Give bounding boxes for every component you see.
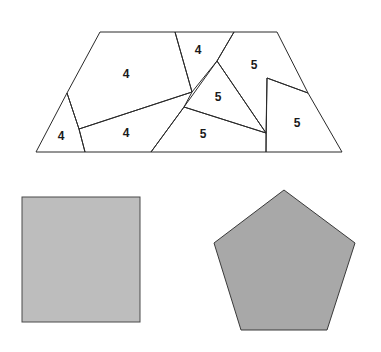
- label-piece-E: 5: [251, 58, 258, 72]
- pentagon-shape: [214, 190, 355, 330]
- label-piece-F: 5: [215, 90, 222, 104]
- label-piece-G: 5: [200, 127, 207, 141]
- label-piece-D: 4: [123, 126, 130, 140]
- square-shape: [22, 197, 140, 322]
- piece-top-left-4: [67, 32, 192, 129]
- label-piece-A: 4: [123, 67, 130, 81]
- label-piece-H: 5: [294, 116, 301, 130]
- piece-bottom-middle-4: [79, 92, 192, 152]
- piece-bottom-5: [151, 107, 266, 152]
- piece-top-middle-4: [175, 32, 234, 92]
- dissection-diagram: 4 4 4 4 5 5 5 5: [0, 0, 381, 352]
- piece-right-5: [266, 78, 342, 152]
- label-piece-B: 4: [195, 43, 202, 57]
- label-piece-C: 4: [58, 129, 65, 143]
